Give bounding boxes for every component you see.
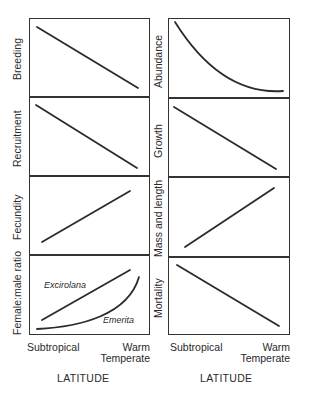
abundance-curve [175,22,283,91]
ylabel-abundance: Abundance [152,35,164,88]
breeding-line [37,27,138,88]
series-label-excirolana: Excirolana [44,280,86,290]
ylabel-breeding: Breeding [11,38,23,80]
xtick-right-temperate: Temperate [235,352,290,364]
ylabel-growth: Growth [152,124,164,158]
ylabel-recruitment: Recruitment [11,110,23,167]
xtick-left-temperate: Temperate [95,352,150,364]
xlabel-right-latitude: LATITUDE [200,372,252,384]
xlabel-left-latitude: LATITUDE [57,372,109,384]
ylabel-mass-and-length: Mass and length [152,180,164,257]
recruitment-line [36,105,137,168]
fecundity-line [42,191,130,242]
ylabel-mortality: Mortality [152,278,164,318]
mass-length-line [185,188,274,247]
ylabel-fecundity: Fecundity [11,194,23,240]
series-label-emerita: Emerita [103,315,134,325]
xtick-right-subtropical: Subtropical [170,341,223,353]
excirolana-line [42,270,130,320]
growth-line [174,107,276,169]
ylabel-female-male-ratio: Female:male ratio [11,251,23,335]
mortality-line [177,265,279,326]
xtick-left-subtropical: Subtropical [27,341,80,353]
